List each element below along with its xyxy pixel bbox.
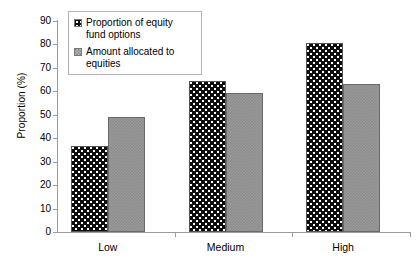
y-tick-label: 70 [40,63,51,73]
bar [306,43,343,232]
y-tick-label: 50 [40,110,51,120]
y-tick-mark [53,209,57,210]
y-tick-label: 30 [40,157,51,167]
y-tick-mark [53,91,57,92]
bar [226,93,263,232]
legend-entry: Amount allocated to equities [74,46,194,69]
bar [108,117,145,232]
x-axis-category-label: Medium [207,241,244,253]
y-tick-label: 80 [40,39,51,49]
y-tick-mark [53,185,57,186]
legend-label: Amount allocated to equities [86,46,194,69]
y-tick-mark [53,162,57,163]
y-tick-mark [53,232,57,233]
y-tick-label: 0 [45,227,51,237]
y-axis-title: Proportion (%) [16,41,27,171]
y-tick-label: 60 [40,86,51,96]
legend-entry: Proportion of equity fund options [74,17,194,40]
bar [343,84,380,232]
y-tick-label: 10 [40,204,51,214]
y-tick-label: 40 [40,133,51,143]
x-tick-mark [410,232,411,237]
x-axis-line [57,232,411,233]
chart-legend: Proportion of equity fund optionsAmount … [68,11,202,75]
bar [71,146,108,232]
bar-chart: Proportion (%) 0102030405060708090 LowMe… [0,0,417,263]
x-axis-category-label: Low [98,241,117,253]
x-axis-category-label: High [332,241,354,253]
y-tick-mark [53,21,57,22]
y-tick-label: 90 [40,16,51,26]
legend-swatch-icon [74,19,82,27]
bar [189,81,226,232]
legend-label: Proportion of equity fund options [86,17,194,40]
x-tick-mark [292,232,293,237]
y-tick-mark [53,44,57,45]
y-tick-mark [53,115,57,116]
x-tick-mark [175,232,176,237]
y-tick-mark [53,138,57,139]
y-tick-label: 20 [40,180,51,190]
y-tick-mark [53,68,57,69]
legend-swatch-icon [74,48,82,56]
